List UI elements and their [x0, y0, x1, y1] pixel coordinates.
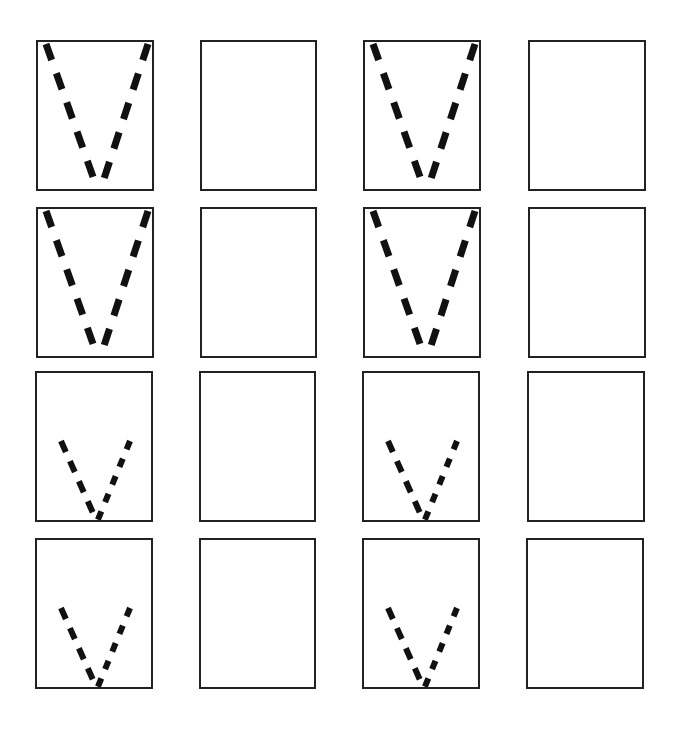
v-shape-panel-r1c3	[363, 40, 481, 191]
empty-panel-r1c2	[200, 40, 317, 191]
v-left-arm	[46, 211, 98, 356]
v-shape-panel-r4c3	[362, 538, 480, 689]
v-right-arm	[97, 441, 130, 520]
dashed-v-icon	[37, 373, 151, 520]
v-shape-panel-r3c3	[362, 371, 480, 522]
dashed-v-icon	[38, 209, 152, 356]
v-left-arm	[373, 44, 425, 189]
v-shape-panel-r3c1	[35, 371, 153, 522]
dashed-v-icon	[365, 42, 479, 189]
v-shape-panel-r2c1	[36, 207, 154, 358]
v-shape-panel-r4c1	[35, 538, 153, 689]
v-right-arm	[427, 211, 475, 356]
empty-panel-r2c2	[200, 207, 317, 358]
v-left-arm	[373, 211, 425, 356]
v-left-arm	[61, 441, 97, 520]
dashed-v-icon	[38, 42, 152, 189]
v-shape-panel-r2c3	[363, 207, 481, 358]
empty-panel-r3c2	[199, 371, 316, 522]
empty-panel-r2c4	[528, 207, 646, 358]
empty-panel-r4c4	[526, 538, 644, 689]
v-right-arm	[424, 441, 457, 520]
v-left-arm	[388, 441, 424, 520]
v-right-arm	[424, 608, 457, 687]
empty-panel-r1c4	[528, 40, 646, 191]
empty-panel-r4c2	[199, 538, 316, 689]
dashed-v-icon	[37, 540, 151, 687]
v-left-arm	[61, 608, 97, 687]
v-right-arm	[100, 44, 148, 189]
v-right-arm	[100, 211, 148, 356]
v-right-arm	[97, 608, 130, 687]
dashed-v-icon	[364, 373, 478, 520]
empty-panel-r3c4	[527, 371, 645, 522]
v-left-arm	[388, 608, 424, 687]
dashed-v-icon	[365, 209, 479, 356]
v-right-arm	[427, 44, 475, 189]
dashed-v-icon	[364, 540, 478, 687]
v-left-arm	[46, 44, 98, 189]
v-shape-panel-r1c1	[36, 40, 154, 191]
